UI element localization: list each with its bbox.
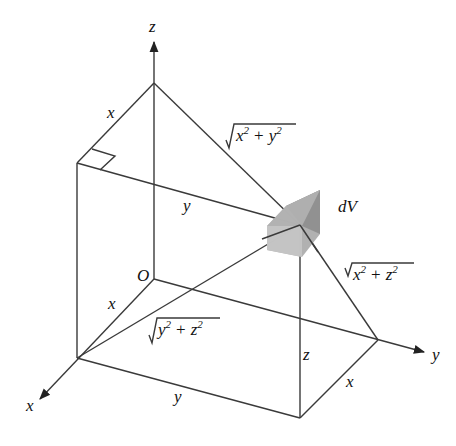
y-axis [154, 279, 424, 352]
base-edge-x [300, 340, 378, 418]
svg-text:x2+z2: x2+z2 [352, 263, 398, 284]
origin-label: O [137, 266, 149, 285]
svg-text:x2+y2: x2+y2 [235, 124, 282, 145]
top-edge-x [77, 83, 154, 163]
y-axis-label: y [430, 345, 440, 364]
volume-element-cube [262, 190, 320, 257]
z-axis-label: z [148, 17, 156, 36]
x-axis-label: x [25, 396, 34, 415]
distance-to-z-axis [154, 83, 300, 225]
x-axis [40, 279, 154, 399]
distance-label-x-axis: y2+z2 [149, 318, 220, 343]
dv-label: dV [338, 197, 360, 216]
distance-to-x-axis [77, 225, 300, 358]
base-x-left-label: x [107, 294, 116, 313]
top-edge-y [77, 163, 300, 225]
right-angle-marker [92, 149, 115, 170]
svg-text:y2+z2: y2+z2 [156, 318, 203, 339]
base-x-right-label: x [345, 372, 354, 391]
distance-label-z-axis: x2+y2 [226, 124, 296, 148]
base-edge-y [77, 358, 300, 418]
top-y-label: y [181, 196, 191, 215]
base-y-label: y [172, 387, 182, 406]
top-x-label: x [106, 103, 115, 122]
volume-element-diagram: z x y O dV x y x y x z x2+y2 x2+z2 y2+z2 [0, 0, 456, 446]
height-z-label: z [302, 345, 310, 364]
distance-label-y-axis: x2+z2 [345, 263, 414, 284]
